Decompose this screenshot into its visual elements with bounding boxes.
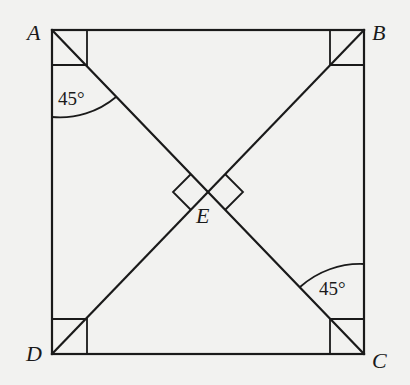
vertex-label-d: D [26,343,42,365]
angle-label-a: 45° [58,89,85,108]
right-angle-marker-e-left [173,174,191,210]
vertex-label-a: A [27,22,40,44]
vertex-label-b: B [372,22,385,44]
diagram-canvas [0,0,410,385]
vertex-label-c: C [372,350,387,372]
geometry-diagram: A B C D E 45° 45° [0,0,410,385]
vertex-label-e: E [196,205,209,227]
angle-label-c: 45° [319,279,346,298]
right-angle-marker-e-right [225,174,243,210]
